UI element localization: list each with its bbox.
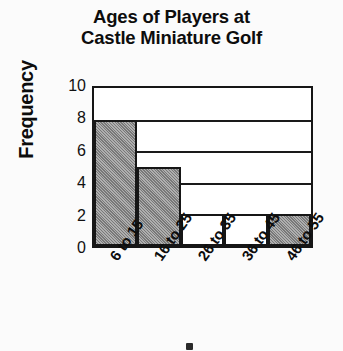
y-axis-tick: 4 — [77, 175, 86, 191]
x-axis-tick-labels: 6 to 15 16 to 25 26 to 35 36 to 45 46 to… — [92, 248, 313, 348]
y-axis-tick: 2 — [77, 208, 86, 224]
y-axis-tick: 0 — [77, 240, 86, 256]
page-scan-artifact — [186, 343, 193, 350]
chart-title: Ages of Players at Castle Miniature Golf — [0, 6, 343, 48]
y-axis-tick: 6 — [77, 143, 86, 159]
y-axis-tick: 8 — [77, 110, 86, 126]
y-axis-tick-labels: 10 8 6 4 2 0 — [56, 86, 86, 248]
chart-title-line-1: Ages of Players at — [0, 6, 343, 27]
chart-container: Ages of Players at Castle Miniature Golf… — [0, 0, 343, 351]
y-axis-tick: 10 — [68, 78, 86, 94]
y-axis-label: Frequency — [15, 40, 38, 180]
chart-title-line-2: Castle Miniature Golf — [0, 27, 343, 48]
